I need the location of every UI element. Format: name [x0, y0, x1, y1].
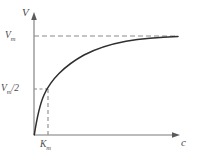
vmax-tick-label: Vm	[5, 31, 16, 42]
x-axis-arrow-icon	[172, 132, 180, 138]
vmax-half-label-tail: /2	[12, 83, 19, 93]
vmax-half-tick-label: Vm/2	[1, 84, 19, 95]
saturation-curve	[34, 36, 178, 134]
plot-canvas	[0, 0, 199, 160]
michaelis-menten-figure: V c Vm Vm/2 Km	[0, 0, 199, 160]
km-tick-label: Km	[40, 140, 51, 151]
y-axis-label: V	[22, 7, 29, 18]
km-tick-label-subscript: m	[46, 144, 51, 151]
x-axis-label: c	[181, 137, 186, 148]
y-axis-arrow-icon	[31, 12, 37, 20]
y-axis	[31, 12, 37, 135]
vmax-tick-label-subscript: m	[11, 35, 16, 42]
x-axis	[34, 132, 180, 138]
